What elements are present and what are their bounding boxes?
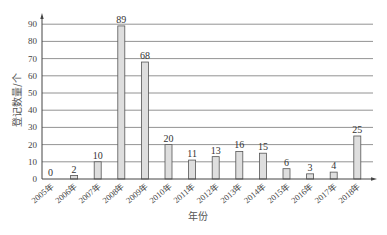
bar — [71, 176, 78, 179]
x-tick-label: 2010年 — [147, 181, 173, 205]
value-label: 16 — [234, 139, 244, 150]
x-tick-label: 2008年 — [100, 181, 126, 205]
bar — [94, 162, 101, 179]
value-label: 68 — [140, 50, 150, 61]
y-tick-label: 40 — [28, 105, 38, 115]
y-tick-label: 20 — [28, 140, 38, 150]
x-tick-label: 2014年 — [242, 181, 268, 205]
bar — [283, 169, 290, 179]
bar — [189, 160, 196, 179]
y-tick-label: 90 — [28, 19, 38, 29]
x-tick-label: 2006年 — [53, 181, 79, 205]
x-tick-label: 2011年 — [171, 181, 197, 205]
x-tick-label: 2015年 — [265, 181, 291, 205]
x-tick-label: 2013年 — [218, 181, 244, 205]
x-tick-label: 2009年 — [124, 181, 150, 205]
value-label: 11 — [187, 148, 197, 159]
value-label: 10 — [93, 150, 103, 161]
y-tick-label: 10 — [28, 157, 38, 167]
value-label: 0 — [48, 167, 53, 178]
value-label: 3 — [308, 162, 313, 173]
x-tick-label: 2017年 — [313, 181, 339, 205]
y-tick-label: 70 — [28, 54, 38, 64]
x-tick-label: 2005年 — [29, 181, 55, 205]
x-tick-label: 2018年 — [336, 181, 362, 205]
x-tick-label: 2012年 — [195, 181, 221, 205]
value-label: 89 — [116, 14, 126, 25]
bar — [236, 151, 243, 179]
y-axis-arrow-icon — [40, 13, 43, 19]
value-label: 25 — [352, 124, 362, 135]
bar-chart: 0102030405060708090 02108968201113161563… — [0, 0, 387, 235]
value-label: 6 — [284, 157, 289, 168]
x-tick-label: 2016年 — [289, 181, 315, 205]
value-labels: 02108968201113161563425 — [48, 14, 362, 178]
value-label: 13 — [211, 145, 221, 156]
x-axis-arrow-icon — [371, 177, 377, 180]
gridlines — [42, 24, 373, 162]
bar — [354, 136, 361, 179]
y-tick-label: 60 — [28, 71, 38, 81]
value-label: 4 — [331, 160, 336, 171]
y-axis-label: 登记数量/个 — [11, 73, 23, 126]
y-tick-label: 50 — [28, 88, 38, 98]
value-label: 15 — [258, 141, 268, 152]
x-axis-ticks: 2005年2006年2007年2008年2009年2010年2011年2012年… — [29, 181, 362, 205]
bar — [259, 153, 266, 179]
bar — [330, 172, 337, 179]
y-tick-label: 80 — [28, 36, 38, 46]
bar — [165, 145, 172, 179]
bar — [212, 157, 219, 179]
value-label: 20 — [164, 133, 174, 144]
bar — [118, 26, 125, 179]
bars — [71, 26, 361, 179]
x-tick-label: 2007年 — [77, 181, 103, 205]
value-label: 2 — [72, 164, 77, 175]
y-tick-label: 0 — [33, 174, 38, 184]
x-axis-label: 年份 — [188, 210, 208, 222]
y-axis-ticks: 0102030405060708090 — [28, 19, 38, 184]
bar — [307, 174, 314, 179]
bar — [141, 62, 148, 179]
y-tick-label: 30 — [28, 122, 38, 132]
